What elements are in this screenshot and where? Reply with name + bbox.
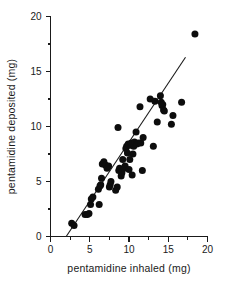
data-point <box>157 92 164 99</box>
x-axis-title: pentamidine inhaled (mg) <box>67 262 190 274</box>
y-axis-title: pentamidine deposited (mg) <box>5 59 17 194</box>
y-tick-label: 15 <box>30 66 42 77</box>
data-point <box>140 134 147 141</box>
data-point <box>107 178 114 185</box>
data-point <box>129 151 136 158</box>
data-point <box>151 98 158 105</box>
data-point <box>168 121 175 128</box>
plot-canvas: 0510152005101520pentamidine inhaled (mg)… <box>0 0 226 282</box>
data-point <box>105 163 112 170</box>
data-point <box>96 201 103 208</box>
data-point <box>136 103 143 110</box>
data-point <box>169 112 176 119</box>
x-tick-label: 0 <box>48 244 54 255</box>
y-tick-label: 5 <box>36 176 42 187</box>
y-tick-label: 0 <box>36 231 42 242</box>
x-tick-label: 10 <box>123 244 135 255</box>
data-point <box>85 210 92 217</box>
data-point <box>98 175 105 182</box>
y-tick-label: 20 <box>30 11 42 22</box>
y-tick-label: 10 <box>30 121 42 132</box>
data-point <box>150 143 157 150</box>
data-point <box>133 129 140 136</box>
data-point <box>178 99 185 106</box>
data-point <box>115 124 122 131</box>
x-tick-label: 20 <box>202 244 214 255</box>
data-point <box>119 156 126 163</box>
x-tick-label: 15 <box>163 244 175 255</box>
plot-background <box>0 0 226 282</box>
data-point <box>139 167 146 174</box>
data-point <box>191 31 198 38</box>
data-point <box>161 108 168 115</box>
data-point <box>114 184 121 191</box>
data-point <box>129 171 136 178</box>
data-point <box>154 119 161 126</box>
x-tick-label: 5 <box>87 244 93 255</box>
data-point <box>71 222 78 229</box>
data-point <box>97 181 104 188</box>
data-point <box>89 193 96 200</box>
scatter-plot-figure: 0510152005101520pentamidine inhaled (mg)… <box>0 0 226 282</box>
